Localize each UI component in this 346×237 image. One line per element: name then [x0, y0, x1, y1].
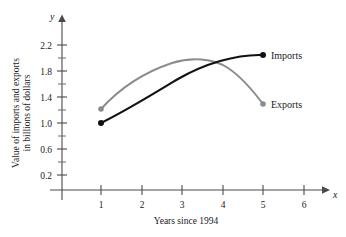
x-ticklabel-2: 2 [140, 200, 145, 210]
y-ticklabel-1p4: 1.4 [40, 93, 52, 103]
x-axis-arrowhead [322, 186, 330, 194]
exports-series-label: Exports [271, 99, 302, 110]
series-group [98, 52, 266, 126]
y-ticklabel-0p2: 0.2 [40, 171, 52, 181]
y-ticklabel-1p0: 1.0 [40, 119, 52, 129]
exports-start-point [98, 106, 104, 112]
chart-figure: x y 1 2 3 4 5 6 [0, 0, 346, 237]
y-ticklabel-2p2: 2.2 [40, 41, 52, 51]
y-axis-title-line2: in billions of dollars [22, 74, 32, 151]
x-axis-title: Years since 1994 [154, 216, 219, 226]
imports-curve [101, 55, 263, 123]
y-tick-group: 0.2 0.6 1.0 1.4 1.8 2.2 [40, 41, 67, 181]
x-ticklabel-6: 6 [302, 200, 307, 210]
x-ticklabel-1: 1 [99, 200, 104, 210]
x-ticklabel-5: 5 [261, 200, 266, 210]
y-axis-arrowhead [58, 15, 66, 23]
imports-start-point [98, 120, 104, 126]
y-axis-variable-label: y [49, 11, 55, 22]
y-ticklabel-0p6: 0.6 [40, 145, 52, 155]
y-ticklabel-1p8: 1.8 [40, 67, 52, 77]
x-ticklabel-4: 4 [221, 200, 226, 210]
imports-end-point [260, 52, 266, 58]
curve-label-group: Imports Exports [271, 50, 302, 110]
x-axis-variable-label: x [332, 189, 338, 200]
x-ticklabel-3: 3 [180, 200, 185, 210]
y-axis-title-line1: Value of imports and exports [11, 58, 21, 168]
x-tick-group: 1 2 3 4 5 6 [99, 185, 307, 210]
axis-title-group: Years since 1994 Value of imports and ex… [11, 58, 218, 226]
imports-series-label: Imports [271, 50, 302, 61]
exports-curve [101, 59, 263, 109]
exports-end-point [260, 101, 266, 107]
line-chart-canvas: x y 1 2 3 4 5 6 [0, 0, 346, 237]
